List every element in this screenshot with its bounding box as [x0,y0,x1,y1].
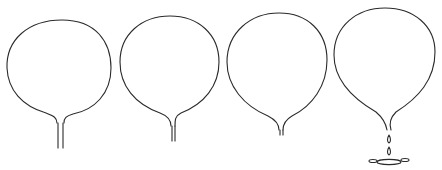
balloon-sequence-diagram [0,0,442,170]
falling-drop-2 [388,147,391,155]
stage-3-balloon [227,13,327,135]
splash-left [369,160,377,163]
splash-right [401,159,409,162]
diagram-svg [0,0,442,170]
stage-4-droplet [334,8,435,165]
splash-puddle [377,159,401,164]
stage-1-balloon [7,20,111,148]
falling-drop-1 [388,135,391,143]
stage-2-balloon [120,16,219,141]
